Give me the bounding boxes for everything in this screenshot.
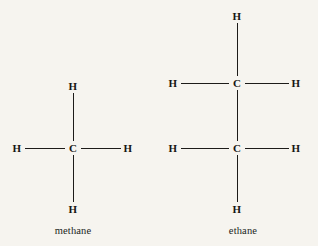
atom-hydrogen-bottom: H bbox=[230, 203, 244, 215]
atom-hydrogen-upper-left: H bbox=[166, 77, 180, 89]
bond-clower-h-left bbox=[181, 148, 229, 149]
atom-carbon-upper: C bbox=[230, 77, 244, 89]
atom-hydrogen-upper-right: H bbox=[289, 77, 303, 89]
molecule-ethane: H H C H H C H H ethane bbox=[0, 0, 318, 246]
atom-hydrogen-lower-right: H bbox=[289, 142, 303, 154]
atom-carbon-lower: C bbox=[230, 142, 244, 154]
bond-clower-h-bottom bbox=[237, 155, 238, 202]
bond-cupper-h-left bbox=[181, 83, 229, 84]
bond-cupper-h-top bbox=[237, 23, 238, 76]
bond-carbon-carbon bbox=[237, 90, 238, 141]
atom-hydrogen-lower-left: H bbox=[166, 142, 180, 154]
bond-clower-h-right bbox=[245, 148, 289, 149]
caption-ethane: ethane bbox=[229, 226, 257, 237]
bond-cupper-h-right bbox=[245, 83, 289, 84]
atom-hydrogen-top: H bbox=[230, 10, 244, 22]
chemical-structure-figure: H H C H H methane H H C H H C H H ethane bbox=[0, 0, 318, 246]
